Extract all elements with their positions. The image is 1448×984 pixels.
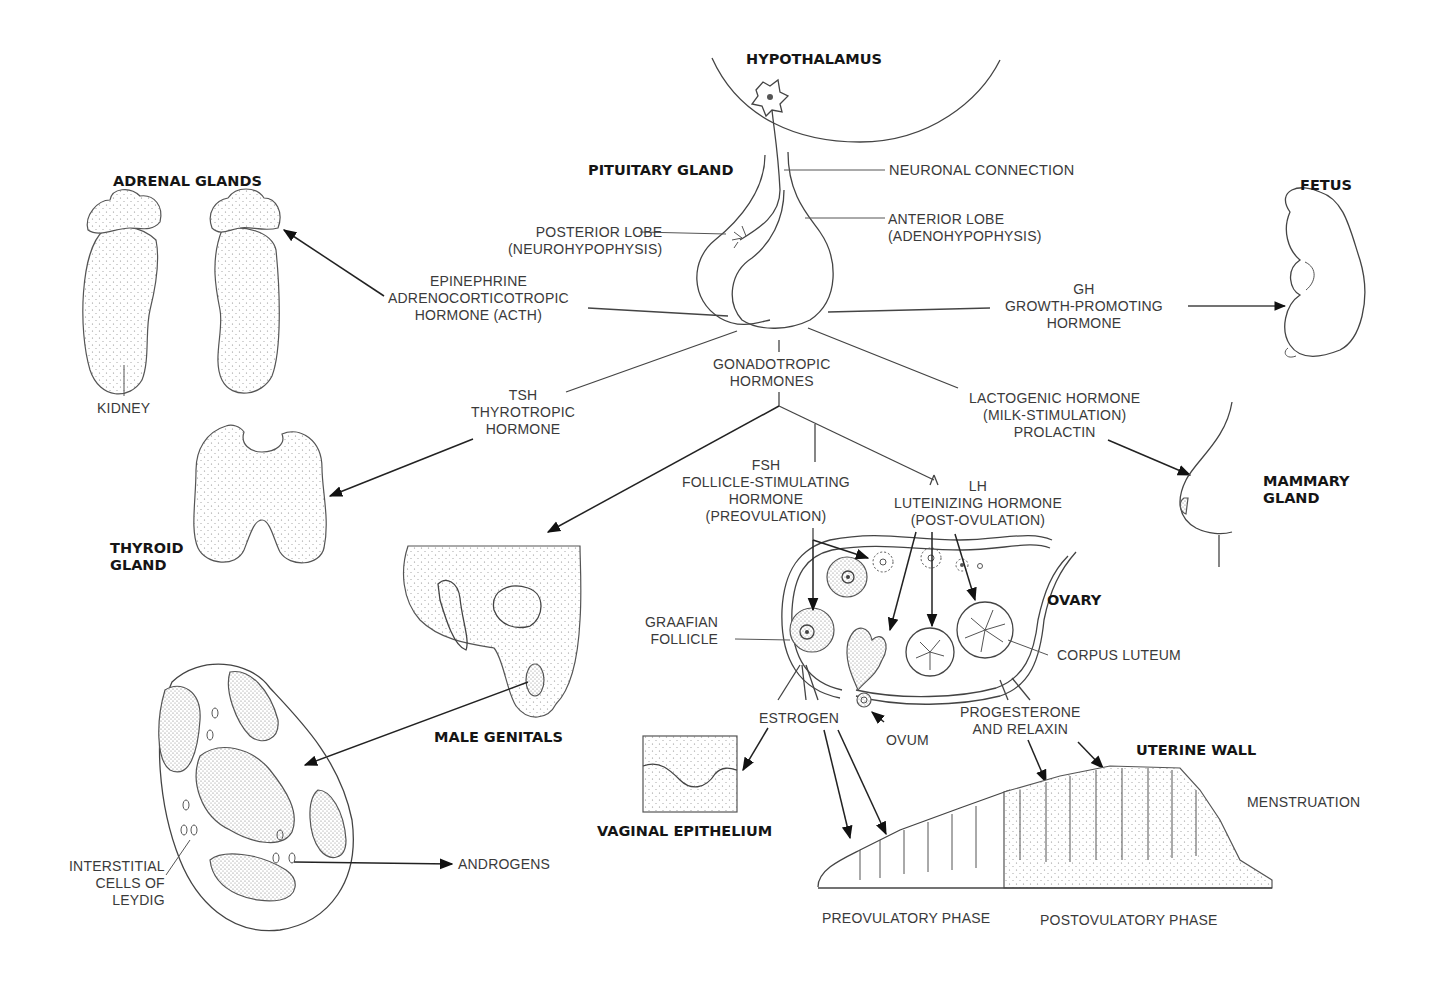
endocrine-diagram: HYPOTHALAMUS PITUITARY GLAND NEURONAL CO… bbox=[0, 0, 1448, 984]
estrogen-label: ESTROGEN bbox=[759, 710, 839, 727]
fetus-label: FETUS bbox=[1300, 177, 1352, 194]
interstitial-cells-label: INTERSTITIAL CELLS OF LEYDIG bbox=[69, 858, 165, 909]
mammary-gland-label: MAMMARY GLAND bbox=[1263, 473, 1350, 507]
pituitary-gland-label: PITUITARY GLAND bbox=[588, 162, 734, 179]
uterine-wall-shape bbox=[818, 766, 1272, 888]
ovum-label: OVUM bbox=[886, 732, 929, 749]
lh-label: LH LUTEINIZING HORMONE (POST-OVULATION) bbox=[894, 478, 1062, 529]
testis-section bbox=[159, 664, 354, 930]
postovulatory-phase-label: POSTOVULATORY PHASE bbox=[1040, 912, 1218, 929]
ovary-label: OVARY bbox=[1047, 592, 1101, 609]
hypothalamus-label: HYPOTHALAMUS bbox=[746, 51, 882, 68]
preovulatory-phase-label: PREOVULATORY PHASE bbox=[822, 910, 990, 927]
gh-label: GH GROWTH-PROMOTING HORMONE bbox=[1005, 281, 1163, 332]
corpus-luteum-label: CORPUS LUTEUM bbox=[1057, 647, 1181, 664]
thyroid-gland-shape bbox=[194, 425, 326, 563]
graafian-follicle-label: GRAAFIAN FOLLICLE bbox=[645, 614, 718, 648]
adrenal-kidney-right bbox=[210, 189, 280, 393]
uterine-wall-label: UTERINE WALL bbox=[1136, 742, 1256, 759]
gonadotropic-label: GONADOTROPIC HORMONES bbox=[713, 356, 831, 390]
lactogenic-label: LACTOGENIC HORMONE (MILK-STIMULATION) PR… bbox=[969, 390, 1140, 441]
posterior-lobe-label: POSTERIOR LOBE (NEUROHYPOPHYSIS) bbox=[508, 224, 662, 258]
pituitary-anterior-lobe bbox=[732, 152, 833, 328]
menstruation-label: MENSTRUATION bbox=[1247, 794, 1360, 811]
neuron-icon bbox=[732, 80, 788, 248]
tsh-label: TSH THYROTROPIC HORMONE bbox=[471, 387, 575, 438]
thyroid-gland-label: THYROID GLAND bbox=[110, 540, 183, 574]
vaginal-epithelium-shape bbox=[643, 736, 737, 812]
androgens-label: ANDROGENS bbox=[458, 856, 550, 873]
vaginal-epithelium-label: VAGINAL EPITHELIUM bbox=[597, 823, 772, 840]
fsh-label: FSH FOLLICLE-STIMULATING HORMONE (PREOVU… bbox=[682, 457, 850, 525]
male-genitals-shape bbox=[404, 546, 581, 717]
adrenal-glands-label: ADRENAL GLANDS bbox=[113, 173, 262, 190]
progesterone-relaxin-label: PROGESTERONE AND RELAXIN bbox=[960, 704, 1081, 738]
acth-label: EPINEPHRINE ADRENOCORTICOTROPIC HORMONE … bbox=[388, 273, 569, 324]
mammary-gland-shape bbox=[1180, 402, 1232, 567]
anterior-lobe-label: ANTERIOR LOBE (ADENOHYPOPHYSIS) bbox=[888, 211, 1042, 245]
adrenal-kidney-left bbox=[83, 190, 161, 396]
male-genitals-label: MALE GENITALS bbox=[434, 729, 563, 746]
kidney-label: KIDNEY bbox=[97, 400, 150, 417]
neuronal-connection-label: NEURONAL CONNECTION bbox=[889, 162, 1074, 179]
ovary-shape bbox=[782, 536, 1076, 707]
fetus-shape bbox=[1285, 188, 1365, 357]
